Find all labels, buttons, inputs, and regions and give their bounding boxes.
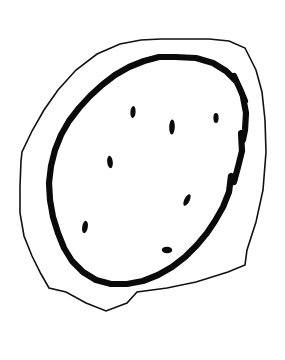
potato-line-drawing <box>0 0 285 360</box>
spot-upper-right <box>213 113 218 123</box>
drawing-canvas: Potato outline sketch Simple black and w… <box>0 0 285 360</box>
canvas-background <box>0 0 285 360</box>
